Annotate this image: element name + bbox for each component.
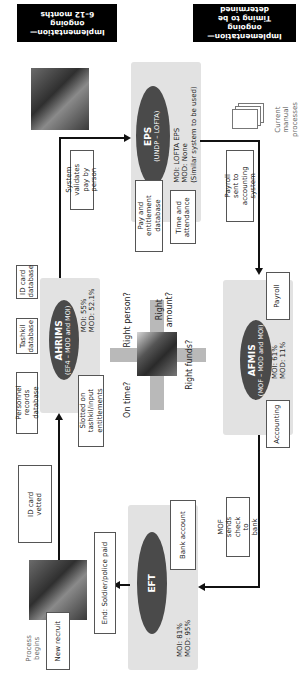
connector-line [58,420,60,562]
process-begins-label: Process begins [20,628,46,668]
banner-line: 6–12 months [30,10,105,19]
eps-stat-note: (Similar system to be used) [189,87,197,184]
arrow-right-icon [124,134,131,142]
module-label: Payroll [274,284,282,307]
module-label: Time and attendance [175,197,192,237]
eft-stat-mod: MOD: 95% [185,619,193,656]
eps-stats: MOI: LOFTA EPS MOD: None (Similar system… [170,90,200,180]
afmis-stats: MOI: 61% MOD: 11% [268,335,292,385]
connector-line [258,140,260,270]
ahrims-ellipse: AHRIMS (EF4 – MOD and MOI) [49,300,79,380]
step-payroll-sent: Payroll sent to accounting system [226,150,254,222]
question-text: Right amount? [155,292,174,327]
afmis-stat-mod: MOD: 11% [280,341,288,378]
afmis-module-accounting: Accounting [266,400,290,448]
banner-line: Implementation— [193,32,296,41]
eps-ellipse: EPS (UNDP – LOFTA) [136,86,170,186]
eps-stat-moi: MOI: LOFTA EPS [172,87,180,184]
module-label: Tashkil database [19,320,36,352]
banner-line: ongoing [193,23,296,32]
manual-text: Current manual processes [273,103,298,138]
eps-owner: (UNDP – LOFTA) [155,110,163,161]
center-photo [137,332,177,376]
eft-ellipse: EFT [137,532,167,634]
step-end-paid: End: Soldier/police paid [94,532,116,634]
ahrims-stats: MOI: 55% MOD: 52.1% [78,290,100,330]
question-text: Right person? [123,292,133,347]
question-on-time: On time? [118,380,138,420]
question-right-funds: Right funds? [180,336,200,394]
current-manual-label: Current manual processes [272,90,300,150]
step-id-card-vetted: ID card vetted [18,465,52,543]
connector-line [200,140,259,142]
eps-module-pay-database: Pay and entitlement database [135,180,163,252]
ahrims-module-id-card: ID card database [16,265,38,299]
question-right-amount: Right amount? [150,290,180,330]
eft-module-bank-account: Bank account [170,500,196,570]
afmis-owner: (MOF – MOD and MOI) [258,324,266,396]
eft-name: EFT [147,574,158,592]
ahrims-module-personnel: Personnel records database [16,372,38,434]
step-label: MOF sends check to bank [217,516,259,538]
process-begins-text: Process begins [25,635,42,662]
step-label: Slotted on tashkil/input entitlements [78,389,103,433]
step-label: System validates pay by person [65,164,99,196]
arrow-left-icon [198,583,205,591]
ahrims-stat-mod: MOD: 52.1% [89,288,97,332]
question-text: Right funds? [185,340,195,390]
step-label: New recruit [54,621,62,661]
banner-line: Implementation— [30,28,105,37]
ahrims-module-tashkil: Tashkil database [16,318,38,354]
connector-line [59,137,61,279]
step-new-recruit: New recruit [46,612,70,670]
arrow-up-icon [55,413,63,420]
recruit-photo [29,560,87,620]
banner-line: Timing to be determined [193,5,296,23]
eps-stat-mod: MOD: None [181,87,189,184]
module-label: Bank account [179,511,187,559]
module-label: Personnel records database [14,386,39,420]
soldiers-photo [31,68,89,130]
afmis-module-payroll: Payroll [266,272,290,320]
arrow-down-icon [255,268,263,275]
status-banner-right: Implementation— ongoing Timing to be det… [193,4,296,42]
module-label: ID card database [19,267,36,297]
step-system-validates: System validates pay by person [70,150,94,210]
connector-line [203,586,260,588]
question-right-person: Right person? [118,290,138,350]
step-mof-sends: MOF sends check to bank [226,497,250,557]
step-label: Payroll sent to accounting system [223,167,257,206]
connector-line [258,435,260,587]
ahrims-owner: (EF4 – MOD and MOI) [66,305,74,374]
eps-module-time-attendance: Time and attendance [170,190,196,244]
module-label: Accounting [274,404,282,443]
module-label: Pay and entitlement database [136,196,161,237]
document-stack-icon [232,109,258,129]
question-text: On time? [123,382,133,418]
connector-line [59,137,127,139]
banner-line: ongoing [30,19,105,28]
step-slotted: Slotted on tashkil/input entitlements [78,375,104,447]
status-banner-left: Implementation— ongoing 6–12 months [17,4,117,42]
step-label: End: Soldier/police paid [101,542,109,625]
ahrims-stat-moi: MOI: 55% [81,288,89,332]
eft-stats: MOI: 81% MOD: 95% [174,618,196,658]
step-label: ID card vetted [27,489,44,519]
